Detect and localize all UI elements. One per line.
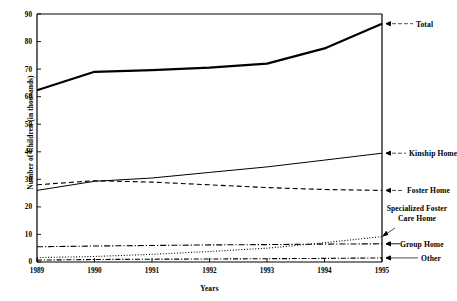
- callout-arrows: [383, 22, 418, 260]
- series-label-total: Total: [416, 20, 433, 29]
- axis-frame: [37, 14, 382, 262]
- series-label-other: Other: [421, 254, 441, 263]
- series-label-specialized-foster-care-home: Specialized Foster Care Home: [386, 204, 448, 223]
- series-line-total: [37, 24, 382, 91]
- series-label-kinship-home: Kinship Home: [409, 149, 457, 158]
- series-line-group-home: [37, 244, 382, 247]
- series-label-foster-home: Foster Home: [407, 186, 450, 195]
- series-label-group-home: Group Home: [400, 240, 444, 249]
- series-line-specialized-foster-care-home: [37, 237, 382, 258]
